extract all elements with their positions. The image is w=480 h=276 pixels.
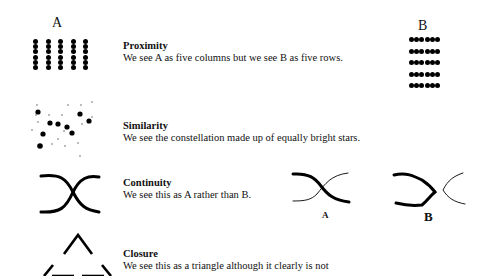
dot	[83, 65, 88, 70]
dot	[83, 49, 88, 54]
similarity-title: Similarity	[123, 120, 168, 132]
proximity-dot-grid-b	[409, 37, 445, 87]
dot	[435, 37, 440, 42]
dot	[419, 83, 424, 88]
dot	[58, 55, 63, 60]
dot	[83, 55, 88, 60]
continuity-figure-b	[392, 170, 480, 206]
similarity-description: We see the constellation made up of equa…	[123, 132, 360, 144]
proximity-label-b: B	[418, 19, 427, 33]
proximity-title: Proximity	[123, 40, 168, 52]
continuity-label-a: A	[322, 210, 329, 220]
dot	[71, 55, 76, 60]
closure-triangle-figure	[40, 232, 110, 276]
continuity-crossing-curves-figure	[38, 170, 108, 220]
dot	[46, 55, 51, 60]
dot	[58, 65, 63, 70]
dot	[46, 65, 51, 70]
dot	[419, 37, 424, 42]
proximity-dot-grid-a	[33, 39, 93, 71]
dot	[425, 37, 430, 42]
dot	[33, 55, 38, 60]
continuity-figure-a	[291, 170, 351, 206]
dot	[46, 49, 51, 54]
continuity-description: We see this as A rather than B.	[123, 189, 251, 201]
dot	[71, 49, 76, 54]
closure-description: We see this as a triangle although it cl…	[123, 260, 329, 272]
dot	[419, 72, 424, 77]
proximity-label-a: A	[52, 16, 62, 30]
closure-title: Closure	[123, 248, 158, 260]
dot	[435, 60, 440, 65]
continuity-title: Continuity	[123, 177, 171, 189]
dot	[435, 49, 440, 54]
dot	[419, 49, 424, 54]
continuity-label-b: B	[424, 209, 433, 225]
proximity-description: We see A as five columns but we see B as…	[123, 52, 343, 64]
dot	[33, 49, 38, 54]
dot	[425, 72, 430, 77]
dot	[419, 60, 424, 65]
dot	[33, 65, 38, 70]
dot	[435, 83, 440, 88]
similarity-constellation-figure	[25, 100, 100, 160]
dot	[425, 60, 430, 65]
dot	[71, 65, 76, 70]
dot	[58, 49, 63, 54]
dot	[425, 83, 430, 88]
dot	[435, 72, 440, 77]
dot	[425, 49, 430, 54]
